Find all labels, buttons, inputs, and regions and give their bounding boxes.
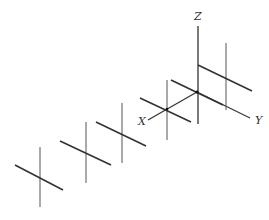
element-6: [15, 147, 63, 207]
origin-point: [195, 90, 198, 93]
element-3-horizontal: [140, 98, 191, 122]
element-6-horizontal: [15, 165, 63, 190]
element-5: [60, 122, 111, 183]
element-1-horizontal: [198, 65, 252, 91]
z-axis-label: Z: [193, 10, 202, 23]
x-axis-junction-point: [166, 108, 169, 111]
element-4: [96, 103, 146, 163]
crossed-dipole-array-diagram: Z Y X: [0, 0, 269, 220]
x-axis-label: X: [137, 115, 147, 128]
element-3: [140, 80, 191, 140]
element-1: [198, 43, 252, 110]
y-axis-label: Y: [255, 114, 264, 127]
